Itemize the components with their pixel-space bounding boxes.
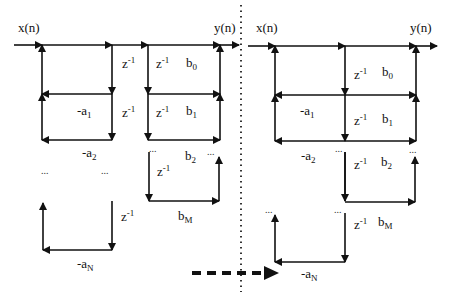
transform-dashed-arrow — [192, 266, 279, 280]
svg-text:...: ... — [207, 146, 215, 157]
coef-a2: -a2 — [82, 145, 97, 162]
coef-b2: b2 — [185, 148, 196, 165]
svg-text:z-1: z-1 — [354, 112, 367, 128]
right-coefficients: b0 b1 b2 bM -a1 -a2 -aN — [300, 64, 394, 283]
coef-b1: b1 — [382, 111, 393, 128]
svg-text:...: ... — [334, 204, 342, 215]
left-coefficients: b0 b1 b2 bM -a1 -a2 -aN — [77, 55, 198, 273]
svg-text:...: ... — [409, 144, 417, 155]
coef-b1: b1 — [186, 103, 197, 120]
coef-bM: bM — [378, 214, 393, 231]
right-ellipses: ... ... ... ... — [265, 143, 417, 215]
svg-text:z-1: z-1 — [157, 163, 170, 179]
right-output-label: y(n) — [410, 20, 432, 35]
svg-text:...: ... — [265, 204, 273, 215]
coef-aN: -aN — [301, 266, 318, 283]
coef-bM: bM — [178, 208, 193, 225]
filter-diagram: x(n) y(n) z-1 z-1 z-1 z-1 z-1 z-1 b0 b1 … — [0, 0, 449, 296]
svg-text:...: ... — [101, 165, 109, 176]
svg-text:...: ... — [41, 165, 49, 176]
coef-b0: b0 — [186, 55, 198, 72]
svg-text:z-1: z-1 — [156, 55, 169, 71]
svg-text:...: ... — [335, 143, 343, 154]
coef-a1: -a1 — [77, 103, 92, 120]
coef-b0: b0 — [382, 64, 394, 81]
right-input-label: x(n) — [256, 20, 278, 35]
svg-text:z-1: z-1 — [354, 156, 367, 172]
svg-text:z-1: z-1 — [122, 55, 135, 71]
svg-text:z-1: z-1 — [354, 66, 367, 82]
coef-b2: b2 — [381, 154, 392, 171]
left-output-label: y(n) — [214, 20, 236, 35]
svg-text:...: ... — [149, 143, 157, 154]
svg-text:z-1: z-1 — [122, 104, 135, 120]
coef-aN: -aN — [77, 256, 94, 273]
right-delay-labels: z-1 z-1 z-1 z-1 — [354, 66, 367, 232]
left-input-label: x(n) — [18, 20, 40, 35]
svg-text:z-1: z-1 — [354, 216, 367, 232]
coef-a1: -a1 — [300, 103, 315, 120]
coef-a2: -a2 — [301, 148, 316, 165]
svg-text:z-1: z-1 — [121, 208, 134, 224]
svg-text:z-1: z-1 — [156, 104, 169, 120]
